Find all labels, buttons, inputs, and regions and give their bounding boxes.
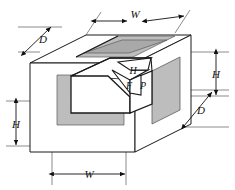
ext-line-w-top-left — [86, 12, 101, 35]
face-label-h: H — [128, 65, 137, 76]
dim-line-w-top-right-seg — [146, 16, 184, 21]
dimension-label-d-upper-left: D — [38, 33, 47, 45]
figure-container: W D H D H W H F P — [0, 0, 235, 190]
dimension-label-h-right: H — [211, 68, 221, 80]
face-label-p: P — [139, 80, 146, 91]
dimension-label-w-bottom: W — [84, 168, 94, 180]
isometric-block-diagram: W D H D H W H F P — [0, 0, 235, 190]
ext-line-w-top-right — [175, 10, 190, 33]
face-label-f: F — [125, 80, 133, 91]
dimension-label-h-left: H — [11, 118, 21, 130]
dimension-label-w-top: W — [130, 8, 140, 20]
dimension-label-d-lower-right: D — [196, 104, 205, 116]
